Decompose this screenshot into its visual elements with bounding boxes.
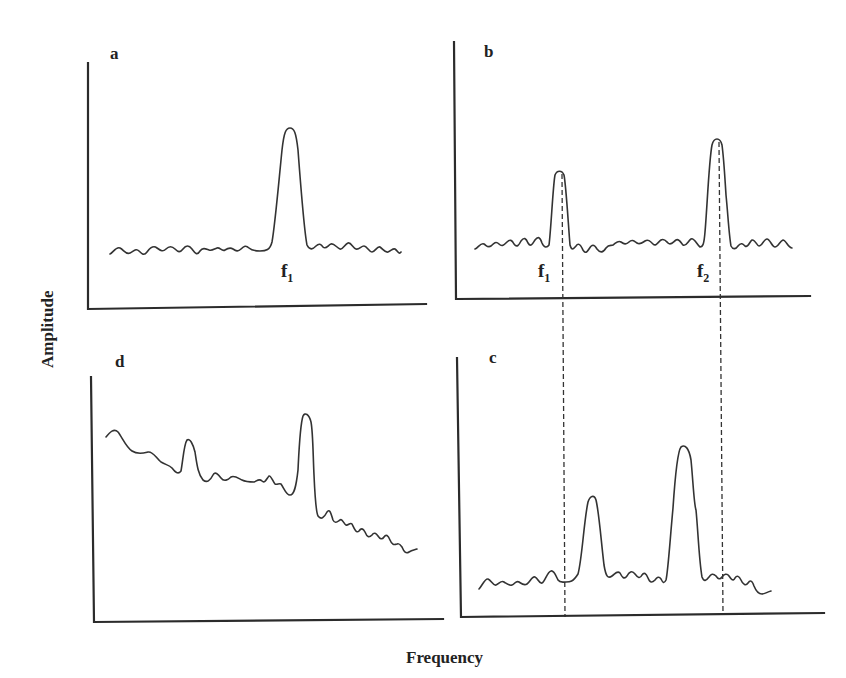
panel-b-label: b bbox=[484, 42, 493, 61]
panel-a-f1-label: f1 bbox=[281, 260, 293, 285]
panel-c-spectrum bbox=[479, 446, 771, 594]
figure-canvas: a f1 b f1 f2 d c Amplitude Frequency bbox=[0, 0, 846, 678]
y-axis-title: Amplitude bbox=[38, 290, 57, 368]
panel-b: b f1 f2 bbox=[454, 42, 810, 299]
panel-b-f2-label: f2 bbox=[697, 260, 709, 285]
f2-reference-line bbox=[719, 142, 723, 614]
panel-c-label: c bbox=[489, 348, 497, 367]
x-axis-title: Frequency bbox=[406, 648, 484, 667]
f1-reference-line bbox=[562, 174, 565, 617]
panel-d-label: d bbox=[115, 352, 125, 371]
panel-a: a f1 bbox=[88, 44, 426, 309]
panel-b-f1-label: f1 bbox=[538, 260, 550, 285]
panel-b-axes bbox=[454, 42, 810, 299]
panel-a-label: a bbox=[110, 44, 119, 63]
panel-d-axes bbox=[91, 377, 443, 622]
panel-c-axes bbox=[457, 358, 824, 617]
panel-d: d bbox=[91, 352, 443, 622]
panel-a-axes bbox=[88, 63, 426, 309]
panel-c: c bbox=[457, 348, 824, 617]
panel-d-spectrum bbox=[106, 414, 417, 553]
panel-a-spectrum bbox=[110, 128, 401, 254]
panel-b-spectrum bbox=[475, 139, 792, 252]
